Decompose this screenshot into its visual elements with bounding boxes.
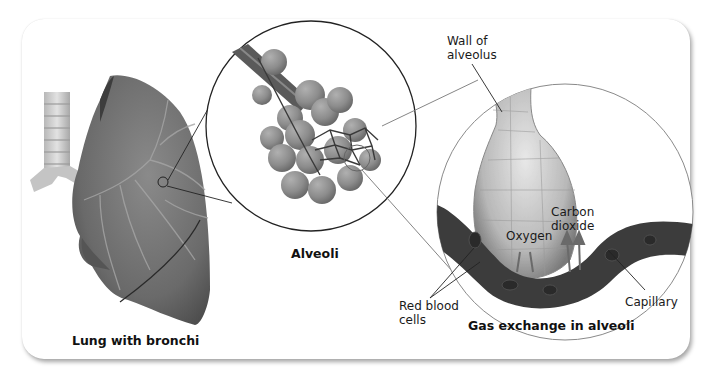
red-blood-cells-line1: Red blood [399, 299, 459, 313]
capillary-label: Capillary [625, 295, 678, 309]
red-blood-cells-label: Red blood cells [399, 299, 459, 327]
caption-alveoli: Alveoli [291, 246, 339, 261]
wall-of-alveolus-line1: Wall of [447, 34, 497, 48]
caption-lung-with-bronchi: Lung with bronchi [72, 333, 199, 348]
alveoli-illustration [206, 21, 478, 300]
red-blood-cells-line2: cells [399, 313, 459, 327]
wall-of-alveolus-line2: alveolus [447, 48, 497, 62]
carbon-dioxide-line1: Carbon [551, 205, 594, 219]
caption-gas-exchange: Gas exchange in alveoli [468, 318, 635, 333]
oxygen-label: Oxygen [506, 229, 552, 243]
wall-of-alveolus-label: Wall of alveolus [447, 34, 497, 62]
carbon-dioxide-line2: dioxide [551, 219, 594, 233]
carbon-dioxide-label: Carbon dioxide [551, 205, 594, 233]
